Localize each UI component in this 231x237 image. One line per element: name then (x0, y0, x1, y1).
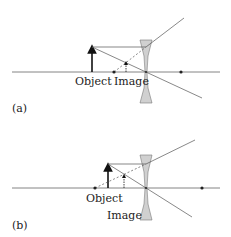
panel-tag: (a) (12, 102, 27, 115)
focal-point-left (93, 186, 96, 189)
focal-point-right (179, 70, 182, 73)
virtual-extension (95, 164, 146, 188)
refracted-ray (146, 140, 195, 164)
image-label: Image (107, 209, 142, 222)
lens-center (145, 71, 147, 73)
refracted-ray (146, 18, 184, 47)
diverging-lens-diagram: Object Image (a) Object Image (b) (0, 0, 231, 237)
object-label: Object (75, 75, 112, 88)
lens-center (145, 187, 147, 189)
panel-b: Object Image (b) (12, 140, 220, 232)
object-label: Object (86, 192, 123, 205)
focal-point-right (200, 186, 203, 189)
image-label: Image (114, 75, 149, 88)
focal-point-left (112, 70, 115, 73)
panel-a: Object Image (a) (12, 18, 220, 115)
panel-tag: (b) (12, 219, 28, 232)
